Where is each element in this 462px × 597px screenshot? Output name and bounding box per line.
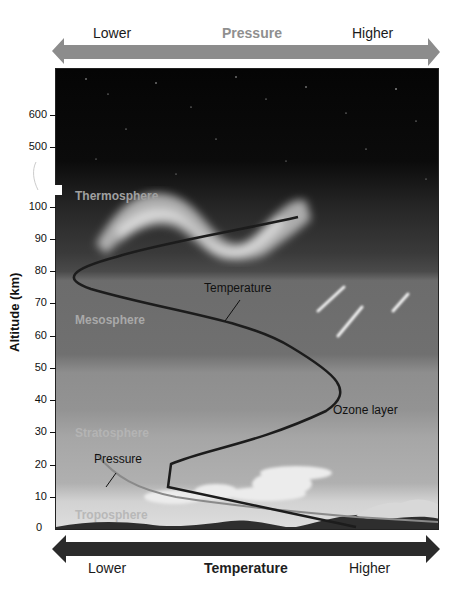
pressure-arrow [52, 36, 442, 70]
tickmark [50, 432, 56, 433]
pressure-axis-title: Pressure [222, 25, 282, 41]
tickmark [50, 465, 56, 466]
stars [85, 76, 426, 179]
mesosphere-label: Mesosphere [75, 313, 145, 327]
tick-100: 100 [7, 200, 47, 212]
stratosphere-label: Stratosphere [75, 426, 149, 440]
tick-30: 30 [7, 425, 47, 437]
temperature-higher-label: Higher [349, 560, 390, 576]
tickmark [50, 497, 56, 498]
clouds [144, 466, 332, 504]
tick-600: 600 [7, 108, 47, 120]
tick-40: 40 [7, 393, 47, 405]
tick-90: 90 [7, 232, 47, 244]
pressure-higher-label: Higher [352, 25, 393, 41]
tickmark [50, 271, 56, 272]
temperature-axis-title: Temperature [204, 560, 288, 576]
pressure-lower-label: Lower [93, 25, 131, 41]
y-axis-label: Altitude (km) [7, 273, 22, 352]
axis-break-icon [48, 185, 62, 199]
atmosphere-panel: Thermosphere Mesosphere Stratosphere Tro… [55, 68, 439, 530]
temperature-curve [74, 217, 356, 527]
tick-10: 10 [7, 490, 47, 502]
meteors [318, 287, 408, 336]
tick-50: 50 [7, 361, 47, 373]
double-arrow-icon [52, 36, 442, 70]
tickmark [50, 400, 56, 401]
tickmark [50, 303, 56, 304]
tick-0: 0 [2, 521, 42, 533]
axis-break-mark [30, 160, 44, 200]
tickmark [50, 368, 56, 369]
pressure-annotation: Pressure [94, 452, 142, 466]
tick-20: 20 [7, 458, 47, 470]
tickmark [50, 207, 56, 208]
tickmark [50, 336, 56, 337]
tickmark [50, 239, 56, 240]
ozone-layer-annotation: Ozone layer [333, 403, 398, 417]
temperature-annotation: Temperature [204, 281, 271, 295]
thermosphere-label: Thermosphere [75, 189, 158, 203]
tickmark [50, 147, 56, 148]
tickmark [50, 115, 56, 116]
aurora [96, 193, 311, 260]
troposphere-label: Troposphere [75, 508, 148, 522]
temperature-lower-label: Lower [88, 560, 126, 576]
tick-500: 500 [7, 140, 47, 152]
